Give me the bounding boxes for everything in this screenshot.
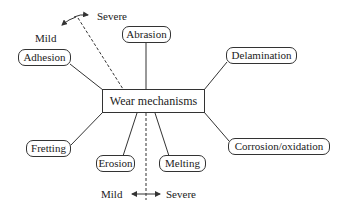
node-abrasion: Abrasion: [122, 26, 171, 43]
top-severity-dashed-line: [78, 18, 123, 89]
bottom-severe-label: Severe: [166, 188, 196, 200]
top-severity-arrow: [74, 15, 88, 17]
top-severe-label: Severe: [97, 10, 127, 22]
link-erosion: [123, 113, 137, 156]
link-melting: [155, 113, 169, 156]
node-fretting: Fretting: [26, 140, 71, 157]
link-fretting: [71, 112, 103, 145]
top-mild-arrow: [62, 17, 76, 25]
link-delamination: [204, 62, 227, 90]
node-melting: Melting: [159, 155, 206, 172]
center-node-wear-mechanisms: Wear mechanisms: [102, 89, 205, 113]
link-adhesion: [70, 64, 103, 90]
node-corrosion-oxidation: Corrosion/oxidation: [228, 138, 330, 155]
top-mild-label: Mild: [35, 32, 56, 44]
node-adhesion: Adhesion: [18, 49, 71, 66]
node-erosion: Erosion: [96, 155, 135, 172]
node-delamination: Delamination: [226, 47, 297, 64]
link-corrosion: [204, 112, 229, 141]
bottom-mild-label: Mild: [101, 188, 122, 200]
